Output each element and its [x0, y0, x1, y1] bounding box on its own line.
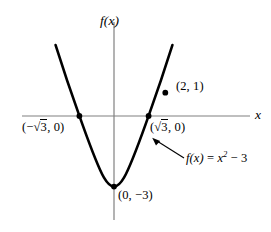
x-axis-label: x — [255, 108, 261, 122]
equation-tail: − 3 — [227, 151, 247, 165]
point-label-2-1: (2, 1) — [176, 80, 204, 93]
y-axis-label: f(x) — [100, 14, 119, 28]
point-2-1 — [162, 90, 168, 96]
parabola-figure: f(x) x (2, 1) (−√3, 0) (√3, 0) f(x) = x2… — [0, 0, 271, 232]
point-label-vertex: (0, −3) — [118, 189, 153, 202]
root-negative-suffix: , 0) — [47, 120, 64, 134]
point-label-root-negative: (−√3, 0) — [22, 121, 64, 134]
point-label-root-positive: (√3, 0) — [150, 121, 185, 134]
equation-label: f(x) = x2 − 3 — [186, 152, 247, 165]
point-root-negative — [77, 113, 83, 119]
equation-arrowhead — [152, 138, 160, 146]
point-vertex — [111, 184, 117, 190]
equation-leader-line — [157, 141, 184, 158]
equation-equals: = — [204, 151, 218, 165]
equation-argument: (x) — [190, 151, 204, 165]
root-negative-prefix: (− — [22, 120, 33, 134]
point-root-positive — [146, 113, 152, 119]
root-positive-suffix: , 0) — [168, 120, 185, 134]
radicand-value: 3 — [161, 119, 168, 134]
